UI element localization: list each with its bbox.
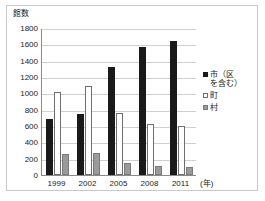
bar: [62, 154, 69, 175]
bar: [139, 47, 146, 175]
y-axis-tick-label: 1000: [20, 90, 38, 98]
y-axis-tick-label: 1400: [20, 58, 38, 66]
bar: [54, 92, 61, 175]
bar: [116, 113, 123, 175]
chart-legend: 市（区 を含む）町村: [203, 70, 255, 115]
plot-area: [41, 29, 196, 176]
bar: [85, 86, 92, 175]
y-axis-tick-label: 1600: [20, 41, 38, 49]
bar-group: [42, 28, 73, 175]
chart-figure: 館数 180016001400120010008006004002000 199…: [0, 0, 265, 201]
bar: [124, 163, 131, 175]
bar-group: [135, 28, 166, 175]
y-axis-tick-label: 0: [34, 172, 38, 180]
legend-item-label: 町: [210, 91, 218, 100]
x-axis-tick-label: 2011: [165, 179, 196, 188]
legend-item-label: 村: [210, 103, 218, 112]
x-axis-tick-label: 2008: [134, 179, 165, 188]
y-axis-tick-label: 1800: [20, 25, 38, 33]
y-axis-tick-label: 400: [25, 139, 38, 147]
y-axis-tick-label: 600: [25, 123, 38, 131]
x-axis-tick-label: 2005: [103, 179, 134, 188]
legend-item: 町: [203, 91, 255, 100]
x-axis-tick-label: 2002: [72, 179, 103, 188]
legend-item-label: 市（区 を含む）: [210, 70, 242, 88]
bar-group: [73, 28, 104, 175]
y-axis-tick-label: 200: [25, 156, 38, 164]
legend-item: 村: [203, 103, 255, 112]
y-axis-tick-labels: 180016001400120010008006004002000: [12, 0, 38, 201]
black-square-icon: [203, 72, 208, 77]
legend-item: 市（区 を含む）: [203, 70, 255, 88]
bar: [46, 119, 53, 175]
bar: [93, 153, 100, 175]
bar: [170, 41, 177, 175]
bar: [147, 124, 154, 175]
gray-square-icon: [203, 105, 208, 110]
bar-group: [166, 28, 197, 175]
bar: [108, 67, 115, 175]
bar-group: [104, 28, 135, 175]
x-axis-unit-label: (年): [200, 179, 213, 188]
y-axis-tick-label: 800: [25, 107, 38, 115]
white-square-icon: [203, 93, 208, 98]
bar: [77, 114, 84, 175]
x-axis-tick-label: 1999: [41, 179, 72, 188]
bar: [186, 167, 193, 175]
bar: [155, 166, 162, 175]
y-axis-tick-label: 1200: [20, 74, 38, 82]
bar: [178, 126, 185, 175]
